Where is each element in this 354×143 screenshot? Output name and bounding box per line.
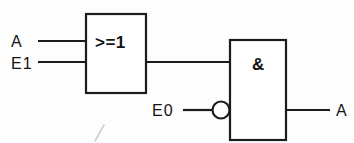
inversion-bubble-icon <box>213 102 230 119</box>
label-input-e1: E1 <box>11 55 33 72</box>
and-gate: & <box>230 40 286 140</box>
and-gate-symbol-label: & <box>252 55 265 74</box>
circuit-diagram-canvas: >=1 & A E1 E0 A <box>0 0 354 143</box>
label-input-e0: E0 <box>152 102 174 119</box>
label-output-a: A <box>336 102 348 119</box>
or-gate-symbol-label: >=1 <box>95 33 126 52</box>
label-input-a: A <box>11 33 23 50</box>
or-gate: >=1 <box>86 14 146 93</box>
logic-circuit-svg: >=1 & A E1 E0 A <box>0 0 354 143</box>
or-gate-body <box>86 14 146 93</box>
stray-pencil-mark <box>95 125 104 141</box>
